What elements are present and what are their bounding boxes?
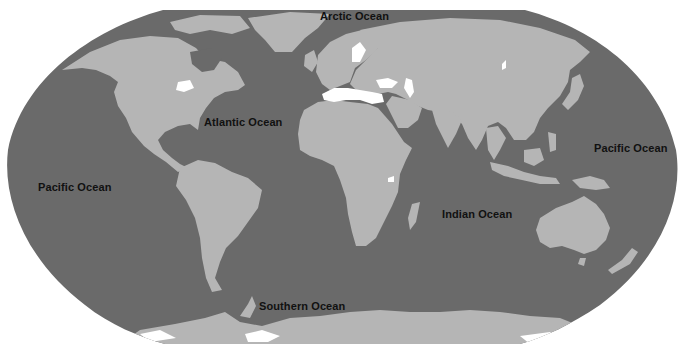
label-arctic-ocean: Arctic Ocean (320, 10, 389, 22)
label-pacific-ocean-west: Pacific Ocean (38, 181, 111, 193)
label-indian-ocean: Indian Ocean (442, 208, 512, 220)
map-graphic (0, 0, 686, 344)
world-map: Arctic Ocean Atlantic Ocean Pacific Ocea… (0, 0, 686, 344)
label-atlantic-ocean: Atlantic Ocean (204, 116, 282, 128)
label-southern-ocean: Southern Ocean (259, 300, 345, 312)
label-pacific-ocean-east: Pacific Ocean (594, 142, 667, 154)
